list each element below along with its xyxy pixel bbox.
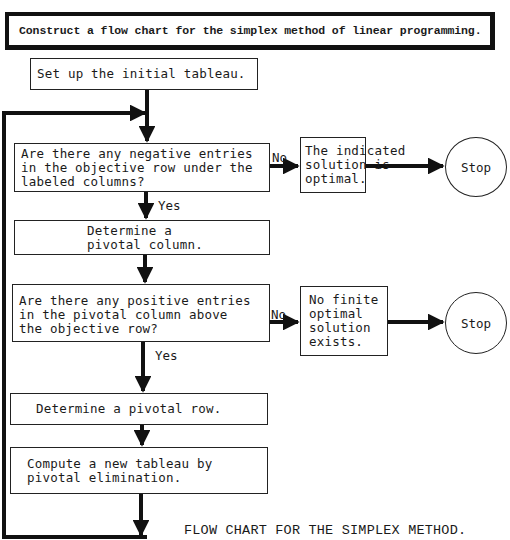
- node-compute-text: Compute a new tableau by pivotal elimina…: [27, 457, 212, 485]
- node-no-finite: No finite optimal solution exists.: [300, 286, 388, 356]
- node-compute: Compute a new tableau by pivotal elimina…: [10, 447, 268, 494]
- node-decision-positive: Are there any positive entries in the pi…: [12, 284, 270, 342]
- node-start: Set up the initial tableau.: [30, 58, 258, 90]
- edge-label-yes-1: Yes: [158, 198, 181, 213]
- node-stop-2: Stop: [445, 292, 507, 354]
- node-stop-1: Stop: [445, 137, 507, 197]
- node-no-finite-text: No finite optimal solution exists.: [309, 293, 379, 349]
- instruction-text: Construct a flow chart for the simplex m…: [19, 24, 481, 37]
- node-optimal-text: The indicated solution is optimal.: [305, 144, 405, 186]
- edge-label-yes-2: Yes: [155, 348, 178, 363]
- node-decision-positive-text: Are there any positive entries in the pi…: [19, 294, 251, 336]
- node-optimal: The indicated solution is optimal.: [300, 137, 366, 193]
- edge-label-no-2: No: [271, 307, 286, 322]
- node-start-text: Set up the initial tableau.: [37, 67, 246, 81]
- figure-caption: FLOW CHART FOR THE SIMPLEX METHOD.: [184, 523, 466, 538]
- node-stop-2-text: Stop: [461, 316, 491, 331]
- node-pivot-column: Determine a pivotal column.: [14, 220, 270, 255]
- node-stop-1-text: Stop: [461, 160, 491, 175]
- node-decision-negative: Are there any negative entries in the ob…: [14, 143, 270, 192]
- node-pivot-row: Determine a pivotal row.: [10, 393, 268, 425]
- node-decision-negative-text: Are there any negative entries in the ob…: [21, 147, 253, 189]
- node-pivot-row-text: Determine a pivotal row.: [36, 402, 221, 416]
- instruction-box: Construct a flow chart for the simplex m…: [5, 12, 495, 50]
- node-pivot-column-text: Determine a pivotal column.: [87, 224, 203, 252]
- edge-label-no-1: No: [272, 150, 287, 165]
